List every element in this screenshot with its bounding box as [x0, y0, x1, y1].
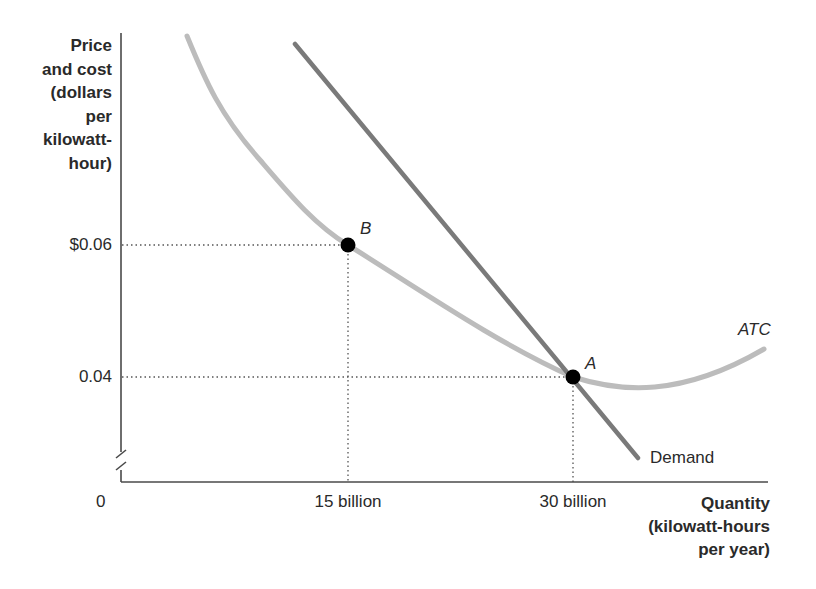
atc-curve	[187, 36, 764, 388]
x-tick-origin: 0	[96, 492, 112, 512]
y-axis-label-line: (dollars	[20, 81, 112, 105]
y-axis-label-line: Price	[20, 34, 112, 58]
demand-curve-label: Demand	[650, 448, 714, 468]
y-axis-label: Price and cost (dollars per kilowatt- ho…	[20, 34, 112, 175]
guide-lines	[122, 245, 573, 482]
axes	[116, 33, 768, 482]
x-tick-label: 15 billion	[300, 492, 396, 512]
x-axis-label-line: per year)	[570, 538, 770, 561]
x-axis-label-line: (kilowatt-hours	[570, 515, 770, 538]
y-axis-label-line: per	[20, 105, 112, 129]
atc-curve-label: ATC	[738, 320, 771, 340]
y-tick-label: $0.06	[40, 235, 112, 255]
x-tick-label: 30 billion	[525, 492, 621, 512]
y-tick-label: 0.04	[40, 367, 112, 387]
y-axis-label-line: kilowatt-	[20, 128, 112, 152]
point-a-label: A	[585, 354, 596, 374]
point-a-marker	[566, 370, 581, 385]
point-b-marker	[341, 238, 356, 253]
y-axis-label-line: hour)	[20, 152, 112, 176]
y-axis-label-line: and cost	[20, 58, 112, 82]
axis-break-mark-2	[116, 462, 126, 470]
point-b-label: B	[360, 219, 371, 239]
